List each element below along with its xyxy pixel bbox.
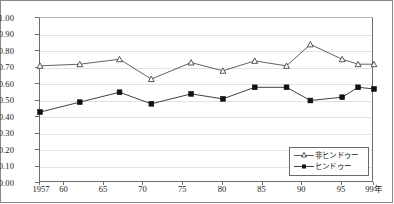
open-triangle-marker-icon (293, 150, 315, 161)
data-point-nonhindu (117, 56, 123, 61)
y-tick-label: 0.90 (0, 30, 14, 39)
x-tick-label: 1957 (33, 185, 50, 194)
chart-figure: 1.00 0.90 0.80 0.70 0.60 0.50 0.40 0.30 … (0, 0, 393, 203)
y-tick-label: 0.00 (0, 179, 14, 188)
data-point-nonhindu (339, 56, 345, 61)
data-point-hindu (77, 100, 82, 105)
y-tick-label: 0.80 (0, 47, 14, 56)
x-tick-label: 65 (99, 185, 108, 194)
x-tick-label: 70 (138, 185, 147, 194)
x-tick-label: 99年 (365, 185, 383, 194)
data-point-hindu (38, 110, 43, 115)
x-tick-label: 80 (218, 185, 227, 194)
data-point-hindu (284, 85, 289, 90)
filled-square-marker-icon (293, 161, 315, 172)
y-tick-label: 0.50 (0, 96, 14, 105)
data-point-nonhindu (148, 76, 154, 81)
x-tick-label: 85 (257, 185, 266, 194)
data-point-hindu (189, 92, 194, 97)
y-tick-label: 0.10 (0, 162, 14, 171)
data-point-hindu (340, 95, 345, 100)
chart-legend: 非ヒンドゥー ヒンドゥー (289, 147, 369, 176)
data-point-hindu (372, 87, 377, 92)
y-tick-label: 1.00 (0, 14, 14, 23)
data-point-hindu (252, 85, 257, 90)
data-point-nonhindu (188, 60, 194, 65)
data-point-nonhindu (252, 58, 258, 63)
data-point-nonhindu (307, 42, 313, 47)
legend-label-hindu: ヒンドゥー (315, 161, 351, 172)
series-line-nonhindu (40, 44, 374, 79)
y-tick-label: 0.30 (0, 129, 14, 138)
series-line-hindu (40, 87, 374, 112)
legend-item-nonhindu: 非ヒンドゥー (293, 150, 365, 161)
data-point-hindu (149, 101, 154, 106)
legend-label-nonhindu: 非ヒンドゥー (315, 150, 358, 161)
data-point-hindu (308, 98, 313, 103)
x-tick-label: 90 (297, 185, 306, 194)
legend-item-hindu: ヒンドゥー (293, 161, 365, 172)
x-tick-label: 75 (178, 185, 187, 194)
data-point-hindu (117, 90, 122, 95)
y-tick-label: 0.70 (0, 63, 14, 72)
y-tick-label: 0.60 (0, 80, 14, 89)
series-markers-nonhindu (37, 42, 377, 82)
data-point-hindu (356, 85, 361, 90)
y-tick-label: 0.20 (0, 146, 14, 155)
x-tick-label: 95 (337, 185, 346, 194)
x-tick-label: 60 (59, 185, 68, 194)
y-tick-label: 0.40 (0, 113, 14, 122)
data-point-hindu (221, 96, 226, 101)
